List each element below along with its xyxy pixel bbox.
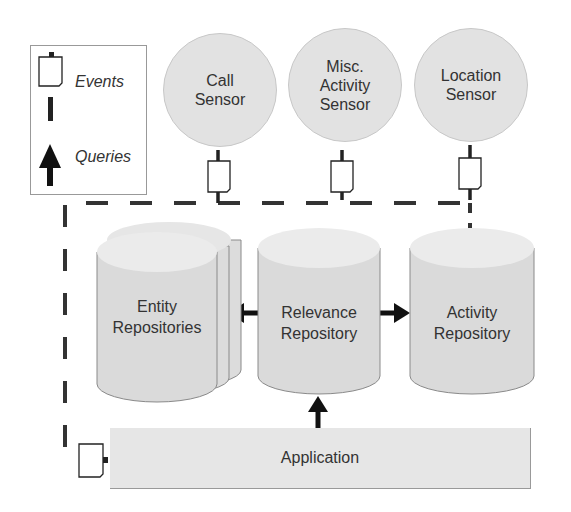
call-sensor: Call Sensor [163, 33, 277, 147]
location-event-document-icon [458, 157, 482, 189]
application-label: Application [281, 449, 359, 467]
misc-activity-sensor-label: Misc. Activity Sensor [320, 57, 371, 114]
call-sensor-label: Call Sensor [195, 71, 246, 109]
legend-events-label: Events [75, 73, 124, 91]
event-dash-icon [48, 97, 53, 121]
call-event-document-icon [207, 160, 231, 192]
legend: Events Queries [30, 45, 147, 195]
query-arrow-icon [39, 144, 61, 186]
entity-repositories: Entity Repositories [97, 222, 243, 407]
legend-queries-label: Queries [75, 148, 131, 166]
entity-repositories-label: Entity Repositories [97, 296, 217, 338]
location-sensor: Location Sensor [414, 28, 528, 142]
query-arrow-activity [380, 303, 410, 323]
relevance-repository: Relevance Repository [258, 228, 380, 398]
misc-activity-sensor: Misc. Activity Sensor [288, 28, 402, 142]
application-event-document-icon [78, 443, 110, 479]
legend-icons [37, 52, 67, 188]
activity-repository-label: Activity Repository [410, 302, 534, 344]
event-document-icon [39, 52, 62, 86]
location-sensor-label: Location Sensor [441, 66, 502, 104]
activity-repository: Activity Repository [410, 228, 534, 398]
application-box: Application [110, 428, 531, 489]
misc-event-document-icon [330, 160, 354, 192]
relevance-repository-label: Relevance Repository [258, 302, 380, 344]
query-arrow-relevance [308, 396, 328, 428]
